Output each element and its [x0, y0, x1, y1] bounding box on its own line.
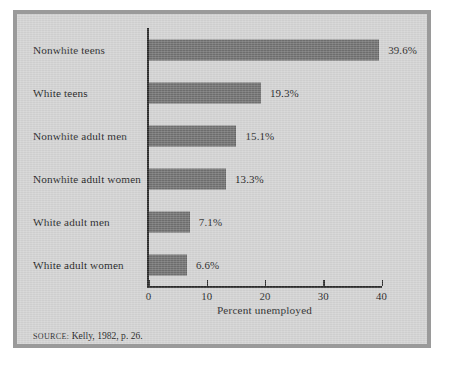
bar: [149, 125, 237, 146]
bar-category-label: White adult women: [33, 259, 124, 271]
x-axis-tick-label: 30: [318, 290, 329, 302]
bar-category-label: Nonwhite teens: [33, 44, 105, 56]
x-axis-tick-mark: [382, 280, 383, 286]
x-axis-tick-label: 0: [146, 290, 151, 302]
bar-row: Nonwhite adult women13.3%: [17, 157, 427, 200]
bar-value-label: 15.1%: [245, 130, 274, 142]
x-axis-title: Percent unemployed: [147, 304, 382, 316]
bar: [149, 254, 187, 275]
bar-category-label: Nonwhite adult men: [33, 130, 127, 142]
x-axis-tick-mark: [207, 280, 208, 286]
bar-value-label: 19.3%: [270, 87, 299, 99]
bar: [149, 168, 226, 189]
figure-frame: Nonwhite teens39.6%White teens19.3%Nonwh…: [13, 10, 431, 348]
x-axis-tick-label: 20: [260, 290, 271, 302]
bar-row: Nonwhite adult men15.1%: [17, 114, 427, 157]
bar: [149, 39, 380, 60]
bar: [149, 82, 261, 103]
x-axis-tick-label: 40: [376, 290, 387, 302]
bar-row: White adult women6.6%: [17, 243, 427, 286]
bar-row: Nonwhite teens39.6%: [17, 28, 427, 71]
source-note: Source: Kelly, 1982, p. 26.: [33, 330, 143, 341]
source-note-prefix: Source:: [33, 332, 69, 341]
bar-value-label: 7.1%: [199, 216, 222, 228]
bar-category-label: White teens: [33, 87, 88, 99]
figure-inner-panel: Nonwhite teens39.6%White teens19.3%Nonwh…: [17, 14, 427, 344]
x-axis-tick-label: 10: [201, 290, 212, 302]
bar-value-label: 13.3%: [235, 173, 264, 185]
bar-value-label: 6.6%: [196, 259, 219, 271]
bar-rows-container: Nonwhite teens39.6%White teens19.3%Nonwh…: [17, 28, 427, 286]
bar-value-label: 39.6%: [388, 44, 417, 56]
bar-chart-plot-area: Nonwhite teens39.6%White teens19.3%Nonwh…: [17, 14, 427, 344]
x-axis-tick-mark: [149, 280, 150, 286]
bar-row: White teens19.3%: [17, 71, 427, 114]
source-note-text: Kelly, 1982, p. 26.: [69, 330, 142, 341]
bar-row: White adult men7.1%: [17, 200, 427, 243]
x-axis-tick-mark: [265, 280, 266, 286]
bar-category-label: Nonwhite adult women: [33, 173, 141, 185]
bar: [149, 211, 190, 232]
x-axis-tick-mark: [323, 280, 324, 286]
bar-category-label: White adult men: [33, 216, 110, 228]
